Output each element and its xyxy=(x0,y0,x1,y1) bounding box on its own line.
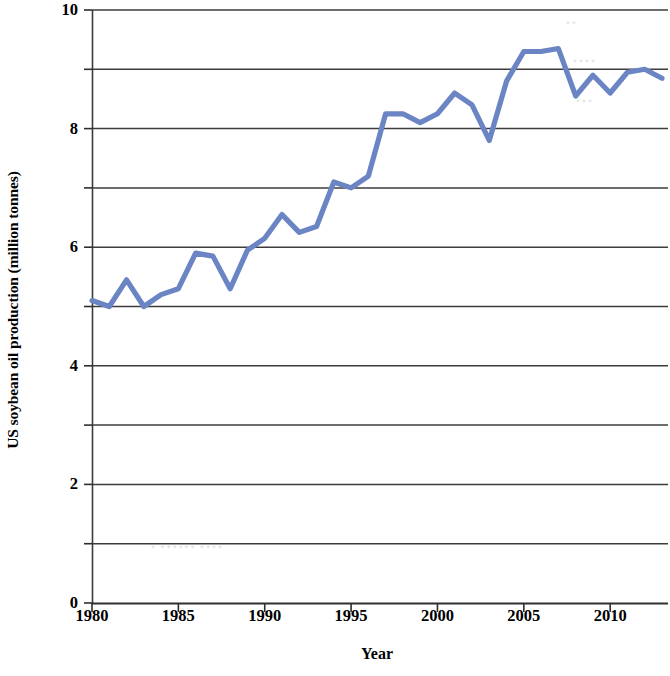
data-line-us-soybean-oil-production xyxy=(92,49,662,307)
y-tick-label: 6 xyxy=(32,239,78,256)
y-tick-label: 4 xyxy=(32,358,78,375)
y-axis-tick-labels: 0246810 xyxy=(14,0,78,676)
plot-area xyxy=(0,0,670,676)
y-axis-ticks xyxy=(84,10,92,603)
x-tick-label: 1980 xyxy=(57,608,127,625)
x-axis-title: Year xyxy=(92,645,662,663)
y-tick-label: 8 xyxy=(32,120,78,137)
x-tick-label: 2000 xyxy=(402,608,472,625)
x-tick-label: 1990 xyxy=(230,608,300,625)
x-tick-label: 1985 xyxy=(143,608,213,625)
x-tick-label: 1995 xyxy=(316,608,386,625)
x-tick-label: 2005 xyxy=(489,608,559,625)
y-tick-label: 10 xyxy=(32,2,78,19)
y-tick-label: 2 xyxy=(32,476,78,493)
chart-figure: ⋅⋅ ⋅⋅⋅⋅ ⋅⋅⋅ ⋅ ⋅⋅⋅⋅⋅⋅ ⋅⋅⋅⋅ US soybean oil… xyxy=(0,0,670,676)
x-tick-label: 2010 xyxy=(575,608,645,625)
